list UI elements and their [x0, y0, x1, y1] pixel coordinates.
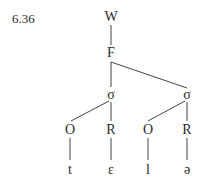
node-rhyme-2: R — [182, 123, 191, 137]
node-syllable-1: σ — [107, 88, 115, 102]
segment-t: t — [68, 163, 72, 177]
node-foot: F — [107, 46, 115, 60]
edge-f-sigma2 — [111, 62, 187, 88]
tree-edges — [0, 0, 204, 185]
edge-sigma1-onset1 — [71, 101, 109, 121]
node-syllable-2: σ — [183, 88, 191, 102]
node-word: W — [104, 10, 117, 24]
edge-sigma2-onset2 — [148, 101, 185, 121]
segment-epsilon: ɛ — [108, 163, 114, 177]
node-rhyme-1: R — [106, 123, 115, 137]
node-onset-2: O — [143, 123, 153, 137]
segment-l: l — [146, 163, 150, 177]
node-onset-1: O — [65, 123, 75, 137]
segment-schwa: ə — [184, 163, 190, 177]
